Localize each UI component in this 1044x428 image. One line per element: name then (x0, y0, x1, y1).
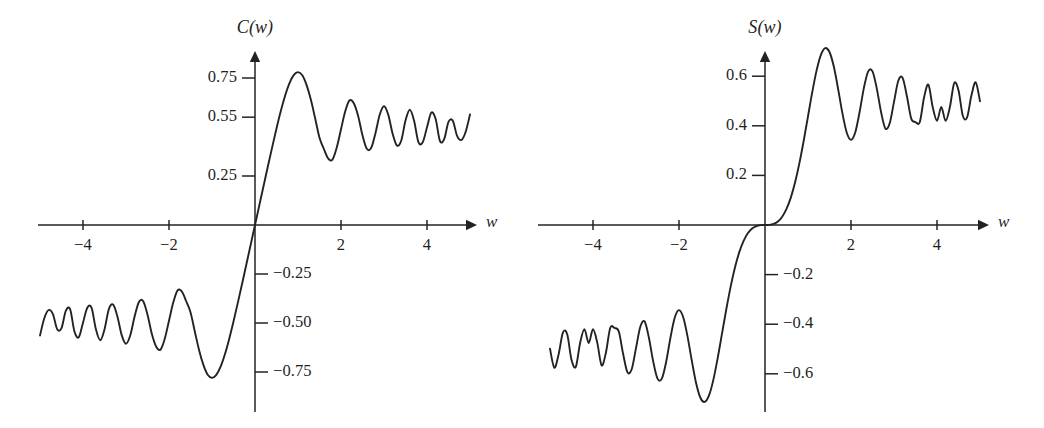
x-tick-label-sw-2: 2 (826, 237, 876, 254)
axes-cw (38, 51, 477, 412)
axis-title-cw: C(w) (211, 18, 299, 36)
fresnel-integrals-figure: C(w) w 0.75 0.55 0.25 −0.25 −0.50 −0.75 … (0, 0, 1044, 428)
y-axis-arrowhead-sw (760, 51, 770, 62)
y-tick-label-sw-1: 0.4 (665, 117, 747, 134)
y-tick-label-sw-4: −0.4 (783, 315, 813, 332)
x-tick-label-sw-0: −4 (568, 237, 618, 254)
y-tick-label-cw-4: −0.50 (273, 314, 312, 331)
x-tick-label-cw-1: −2 (144, 237, 194, 254)
y-tick-label-cw-2: 0.25 (155, 167, 237, 184)
y-tick-label-cw-1: 0.55 (155, 108, 237, 125)
x-tick-label-sw-3: 4 (912, 237, 962, 254)
x-axis-label-sw: w (998, 213, 1009, 230)
chart-canvas-cw (0, 0, 522, 428)
y-tick-label-cw-0: 0.75 (155, 69, 237, 86)
x-tick-label-sw-1: −2 (654, 237, 704, 254)
y-tick-label-sw-2: 0.2 (665, 166, 747, 183)
y-axis-arrowhead-cw (250, 51, 260, 62)
x-tick-label-cw-0: −4 (58, 237, 108, 254)
y-tick-label-sw-5: −0.6 (783, 365, 813, 382)
chart-panel-sw: S(w) w 0.6 0.4 0.2 −0.2 −0.4 −0.6 −4 −2 … (522, 0, 1044, 428)
x-axis-arrowhead-cw (466, 220, 477, 230)
x-axis-arrowhead-sw (978, 220, 989, 230)
chart-panel-cw: C(w) w 0.75 0.55 0.25 −0.25 −0.50 −0.75 … (0, 0, 522, 428)
x-tick-label-cw-3: 4 (402, 237, 452, 254)
y-tick-label-cw-5: −0.75 (273, 363, 312, 380)
x-axis-label-cw: w (486, 213, 497, 230)
y-tick-label-cw-3: −0.25 (273, 265, 312, 282)
axis-title-sw: S(w) (721, 18, 809, 36)
y-tick-label-sw-0: 0.6 (665, 67, 747, 84)
x-tick-label-cw-2: 2 (316, 237, 366, 254)
y-tick-label-sw-3: −0.2 (783, 266, 813, 283)
